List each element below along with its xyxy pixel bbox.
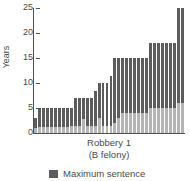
bar-segment-maximum-sentence: [173, 43, 176, 108]
x-axis-title: Robbery 1 (B felony): [33, 137, 185, 161]
y-axis-tick-mark: [36, 133, 40, 134]
legend-label-maximum-sentence: Maximum sentence: [63, 168, 145, 179]
bar: [66, 108, 69, 133]
bar: [106, 83, 109, 133]
bar-segment-maximum-sentence: [54, 108, 57, 127]
bar: [125, 58, 128, 133]
x-axis-title-sub: (B felony): [33, 149, 185, 161]
bar-segment-minimum-sentence: [177, 103, 180, 133]
bar-segment-maximum-sentence: [94, 91, 97, 126]
bar: [173, 43, 176, 133]
bar-segment-minimum-sentence: [62, 127, 65, 133]
bar-segment-maximum-sentence: [117, 58, 120, 118]
y-axis-tick: 0: [0, 133, 40, 134]
bar-segment-maximum-sentence: [90, 98, 93, 126]
bar: [42, 108, 45, 133]
chart-legend: Maximum sentence: [49, 168, 145, 179]
bar-segment-maximum-sentence: [58, 108, 61, 127]
bar-segment-maximum-sentence: [165, 43, 168, 108]
bar: [129, 58, 132, 133]
y-axis-tick-label: 10: [23, 77, 33, 88]
bar-segment-maximum-sentence: [82, 98, 85, 119]
bar-segment-maximum-sentence: [113, 58, 116, 123]
bar-segment-minimum-sentence: [161, 108, 164, 133]
bar: [133, 58, 136, 133]
bar: [58, 108, 61, 133]
bar: [153, 43, 156, 133]
bar-segment-minimum-sentence: [66, 127, 69, 133]
bar-segment-minimum-sentence: [50, 127, 53, 133]
bar: [102, 83, 105, 133]
bar: [54, 108, 57, 133]
bar-segment-minimum-sentence: [121, 113, 124, 133]
bar-segment-maximum-sentence: [106, 83, 109, 126]
bar-segment-minimum-sentence: [94, 126, 97, 134]
bar-series-group: [34, 8, 185, 133]
bar-segment-maximum-sentence: [62, 108, 65, 127]
bar-segment-minimum-sentence: [46, 127, 49, 133]
legend-swatch-maximum-sentence: [49, 170, 58, 178]
bar-segment-minimum-sentence: [38, 127, 41, 133]
bar: [98, 83, 101, 133]
bar-segment-maximum-sentence: [34, 118, 37, 128]
bar-segment-maximum-sentence: [157, 43, 160, 108]
bar-segment-minimum-sentence: [145, 113, 148, 133]
bar-segment-maximum-sentence: [46, 108, 49, 127]
bar-segment-maximum-sentence: [110, 76, 113, 126]
chart-figure: Years 0510152025 Robbery 1 (B felony) Ma…: [0, 0, 190, 181]
bar: [46, 108, 49, 133]
bar: [50, 108, 53, 133]
bar: [169, 43, 172, 133]
bar-segment-minimum-sentence: [141, 113, 144, 133]
bar-segment-minimum-sentence: [181, 103, 184, 133]
bar-segment-maximum-sentence: [133, 58, 136, 113]
bar: [149, 43, 152, 133]
bar-segment-minimum-sentence: [90, 126, 93, 134]
bar-segment-maximum-sentence: [42, 108, 45, 127]
bar: [117, 58, 120, 133]
bar-segment-minimum-sentence: [125, 113, 128, 133]
bar-segment-minimum-sentence: [78, 126, 81, 134]
bar-segment-minimum-sentence: [98, 118, 101, 133]
bar-segment-maximum-sentence: [141, 58, 144, 113]
bar-segment-maximum-sentence: [98, 83, 101, 118]
bar-segment-maximum-sentence: [50, 108, 53, 127]
bar: [70, 108, 73, 133]
bar-segment-minimum-sentence: [153, 108, 156, 133]
bar-segment-minimum-sentence: [173, 108, 176, 133]
bar: [141, 58, 144, 133]
bar: [94, 91, 97, 134]
bar-segment-minimum-sentence: [42, 127, 45, 133]
bar-segment-maximum-sentence: [78, 98, 81, 126]
y-axis-title: Years: [1, 33, 11, 81]
bar: [82, 98, 85, 133]
bar-segment-minimum-sentence: [34, 128, 37, 133]
bar-segment-minimum-sentence: [74, 126, 77, 134]
bar: [38, 108, 41, 133]
bar: [121, 58, 124, 133]
bar: [110, 76, 113, 134]
bar-segment-maximum-sentence: [137, 58, 140, 113]
bar-segment-minimum-sentence: [129, 113, 132, 133]
bar: [161, 43, 164, 133]
bar-segment-maximum-sentence: [153, 43, 156, 108]
bar-segment-maximum-sentence: [121, 58, 124, 113]
bar: [137, 58, 140, 133]
bar: [62, 108, 65, 133]
bar-segment-minimum-sentence: [149, 108, 152, 133]
bar-segment-maximum-sentence: [125, 58, 128, 113]
x-axis-line: [33, 133, 185, 134]
bar-segment-maximum-sentence: [74, 98, 77, 126]
bar: [86, 98, 89, 133]
y-axis-tick-label: 20: [23, 27, 33, 38]
bar: [157, 43, 160, 133]
bar-segment-minimum-sentence: [82, 119, 85, 133]
bar-segment-maximum-sentence: [86, 98, 89, 126]
bar: [90, 98, 93, 133]
bar-segment-minimum-sentence: [137, 113, 140, 133]
bar-segment-maximum-sentence: [102, 83, 105, 126]
bar-segment-maximum-sentence: [177, 8, 180, 103]
bar: [181, 8, 184, 133]
bar-segment-minimum-sentence: [70, 126, 73, 134]
bar-segment-minimum-sentence: [102, 126, 105, 134]
